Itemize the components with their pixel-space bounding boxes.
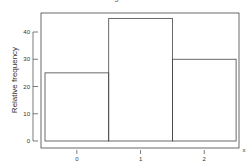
x-axis-label: x [243,147,246,153]
bar-2 [172,59,236,141]
x-tick-label: 1 [139,156,143,162]
plot-area: 010203040012x [23,13,245,162]
plot-frame [41,13,239,148]
bar-1 [109,18,173,141]
y-tick-label: 10 [23,111,30,117]
bar-0 [45,73,109,141]
x-tick-label: 2 [203,156,207,162]
y-tick-label: 0 [27,138,31,144]
y-tick-label: 40 [23,29,30,35]
y-tick-label: 30 [23,56,30,62]
y-tick-label: 20 [23,84,30,90]
histogram-plot: 010203040012x [0,0,251,168]
x-tick-label: 0 [75,156,79,162]
